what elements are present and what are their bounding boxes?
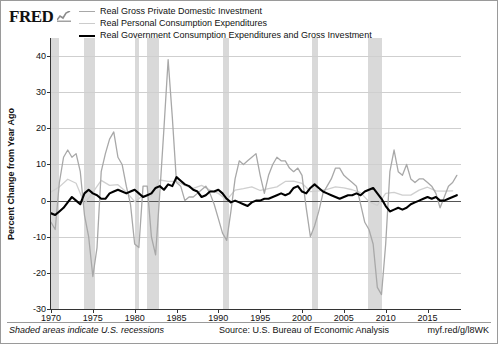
legend-item[interactable]: Real Personal Consumption Expenditures xyxy=(79,18,372,29)
y-axis-label: Percent Change from Year Ago xyxy=(5,38,17,310)
line-chart-icon xyxy=(57,11,71,22)
y-tick-mark xyxy=(47,128,51,129)
legend-swatch xyxy=(79,23,95,24)
y-tick-mark xyxy=(47,237,51,238)
y-tick-label: -10 xyxy=(33,232,46,242)
fred-chart-window: FRED Real Gross Private Domestic Investm… xyxy=(0,0,498,344)
y-tick-mark xyxy=(47,273,51,274)
series-line xyxy=(51,60,457,295)
footer-divider xyxy=(7,322,491,323)
legend-label: Real Gross Private Domestic Investment xyxy=(100,6,262,17)
y-tick-label: 30 xyxy=(36,87,46,97)
plot-clip xyxy=(51,38,461,309)
y-tick-label: 0 xyxy=(41,196,46,206)
plot-area: -30-20-100102030401970197519801985199019… xyxy=(50,38,461,310)
legend-swatch xyxy=(79,35,95,37)
short-url: myf.red/g/l8WK xyxy=(427,325,489,335)
legend: Real Gross Private Domestic InvestmentRe… xyxy=(79,6,372,42)
y-tick-label: 40 xyxy=(36,51,46,61)
legend-item[interactable]: Real Gross Private Domestic Investment xyxy=(79,6,372,17)
legend-swatch xyxy=(79,11,95,12)
footer: Shaded areas indicate U.S. recessions So… xyxy=(1,325,497,339)
y-tick-mark xyxy=(47,201,51,202)
y-tick-label: 20 xyxy=(36,123,46,133)
y-tick-mark xyxy=(47,164,51,165)
source-note: Source: U.S. Bureau of Economic Analysis xyxy=(219,325,389,335)
legend-label: Real Personal Consumption Expenditures xyxy=(100,18,267,29)
series-line xyxy=(51,177,457,215)
series-canvas xyxy=(51,38,461,309)
y-tick-mark xyxy=(47,92,51,93)
y-tick-label: -20 xyxy=(33,268,46,278)
y-tick-label: 10 xyxy=(36,159,46,169)
fred-logo: FRED xyxy=(9,7,53,27)
y-tick-mark xyxy=(47,56,51,57)
recession-note: Shaded areas indicate U.S. recessions xyxy=(9,325,164,335)
